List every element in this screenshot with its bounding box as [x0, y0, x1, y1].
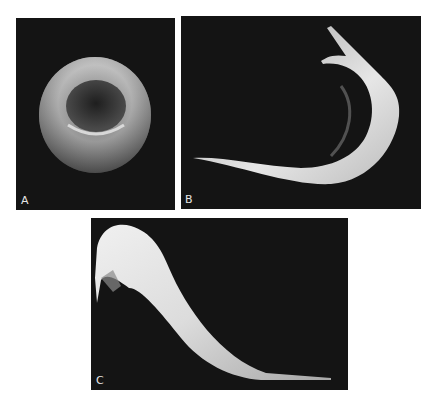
elongated-sickle-cell-image: [91, 218, 348, 390]
panel-label: C: [96, 375, 104, 386]
normal-rbc-image: [16, 18, 175, 210]
panel-label: A: [21, 195, 29, 206]
panel-c-elongated-sickle-cell: C: [91, 218, 348, 390]
panel-a-normal-rbc: A: [16, 18, 175, 210]
panel-b-sickle-cell: B: [181, 16, 421, 209]
sickle-cell-image: [181, 16, 421, 209]
panel-label: B: [185, 194, 193, 205]
